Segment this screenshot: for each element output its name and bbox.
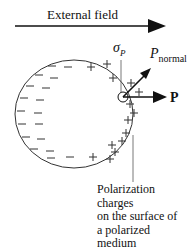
p-label: P: [170, 90, 179, 106]
p-normal-symbol: P: [150, 46, 159, 61]
p-normal-label: Pnormal: [150, 46, 187, 64]
sigma-p-label: σP: [113, 40, 125, 58]
sigma-subscript: P: [120, 48, 126, 58]
caption-line: medium: [97, 237, 196, 251]
p-normal-subscript: normal: [159, 53, 187, 64]
sigma-symbol: σ: [113, 40, 120, 55]
caption: Polarization charges on the surface of a…: [97, 183, 196, 251]
caption-line: on the surface of: [97, 210, 196, 224]
caption-line: charges: [97, 197, 196, 211]
caption-line: Polarization: [97, 183, 196, 197]
external-field-label: External field: [47, 7, 118, 23]
caption-line: a polarized: [97, 224, 196, 238]
